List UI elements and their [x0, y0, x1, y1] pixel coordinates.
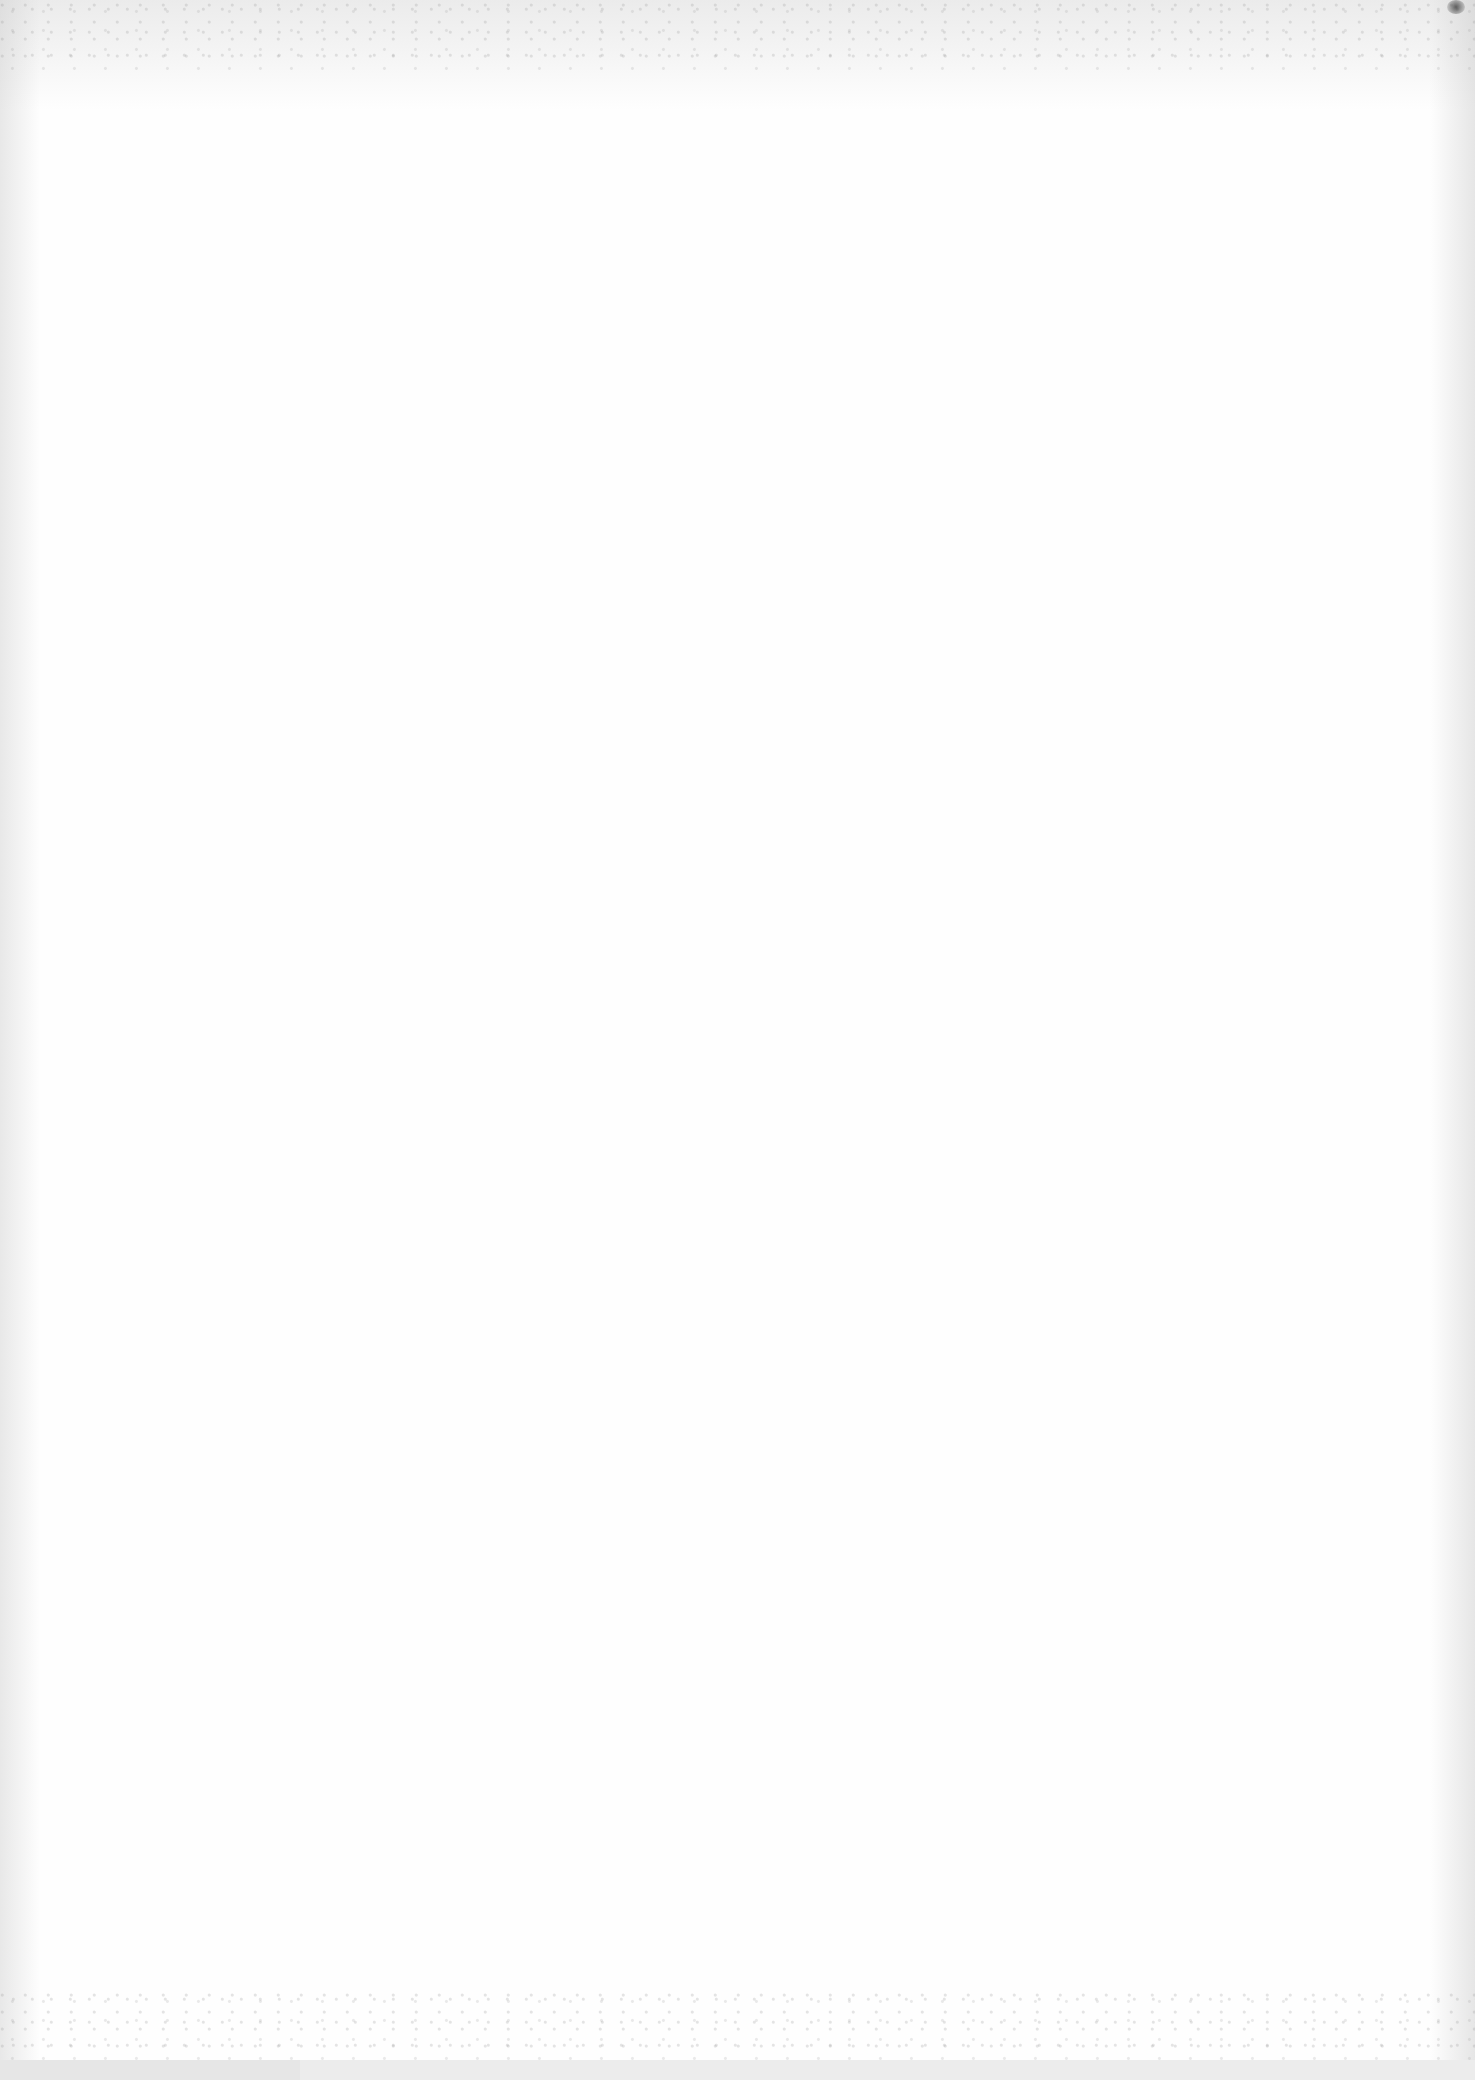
scan-left-shadow — [0, 0, 40, 2080]
scan-noise-bottom — [0, 1990, 1475, 2060]
scan-corner-speck — [1447, 0, 1465, 14]
blank-scanned-page — [0, 0, 1475, 2080]
scan-bottom-edge-left — [0, 2060, 300, 2080]
scan-right-shadow — [1430, 0, 1475, 2080]
scan-noise-top — [0, 0, 1475, 70]
